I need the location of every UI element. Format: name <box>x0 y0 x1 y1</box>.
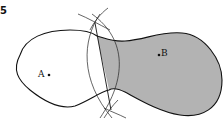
arc-top-cross <box>78 14 110 30</box>
point-a <box>48 74 51 77</box>
point-b <box>158 54 161 57</box>
bisector-diagram: A B <box>0 0 224 132</box>
label-a: A <box>37 69 45 79</box>
shaded-region <box>97 33 222 116</box>
label-b: B <box>161 48 168 58</box>
